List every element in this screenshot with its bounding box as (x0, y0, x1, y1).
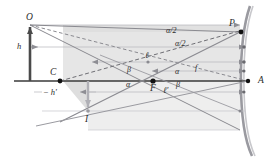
label-point-I: I (85, 115, 88, 125)
optics-ray-diagram: O C F P A I h − h' ℓ f ℓ' α/2 α/2 β α α … (0, 0, 276, 162)
label-point-O: O (26, 13, 33, 23)
point-marker-C (58, 79, 63, 84)
label-angle-alpha-half-bottom: α/2 (175, 40, 185, 48)
label-angle-alpha-lower-left: α (126, 81, 130, 89)
label-length-f: f (195, 63, 197, 72)
label-point-F: F (150, 84, 156, 94)
point-marker-mirror-ellprime (243, 91, 246, 94)
point-marker-I (86, 109, 90, 113)
point-marker-mirror-f (243, 70, 246, 73)
point-marker-mirror-ell (242, 60, 245, 63)
point-marker-A (246, 79, 250, 83)
label-angle-beta-lower-right: β (176, 81, 180, 89)
shade-triangle-OPA (63, 25, 240, 81)
label-angle-alpha-half-top: α/2 (166, 27, 176, 35)
label-point-C: C (50, 68, 56, 78)
point-marker-T (146, 60, 149, 63)
label-point-A: A (258, 76, 264, 86)
label-point-P: P (229, 19, 235, 29)
point-marker-mirror-lower (239, 110, 242, 113)
label-angle-alpha-upper-right: α (175, 68, 179, 76)
label-length-ell-prime: ℓ' (163, 86, 168, 95)
label-length-h-prime: − h' (43, 88, 57, 97)
label-angle-beta-upper-left: β (127, 66, 131, 74)
point-marker-P (239, 30, 244, 35)
point-marker-mirror-h (242, 45, 245, 48)
label-length-h: h (17, 42, 21, 51)
shade-image-wedge (63, 81, 88, 111)
label-length-ell: ℓ (145, 51, 149, 60)
